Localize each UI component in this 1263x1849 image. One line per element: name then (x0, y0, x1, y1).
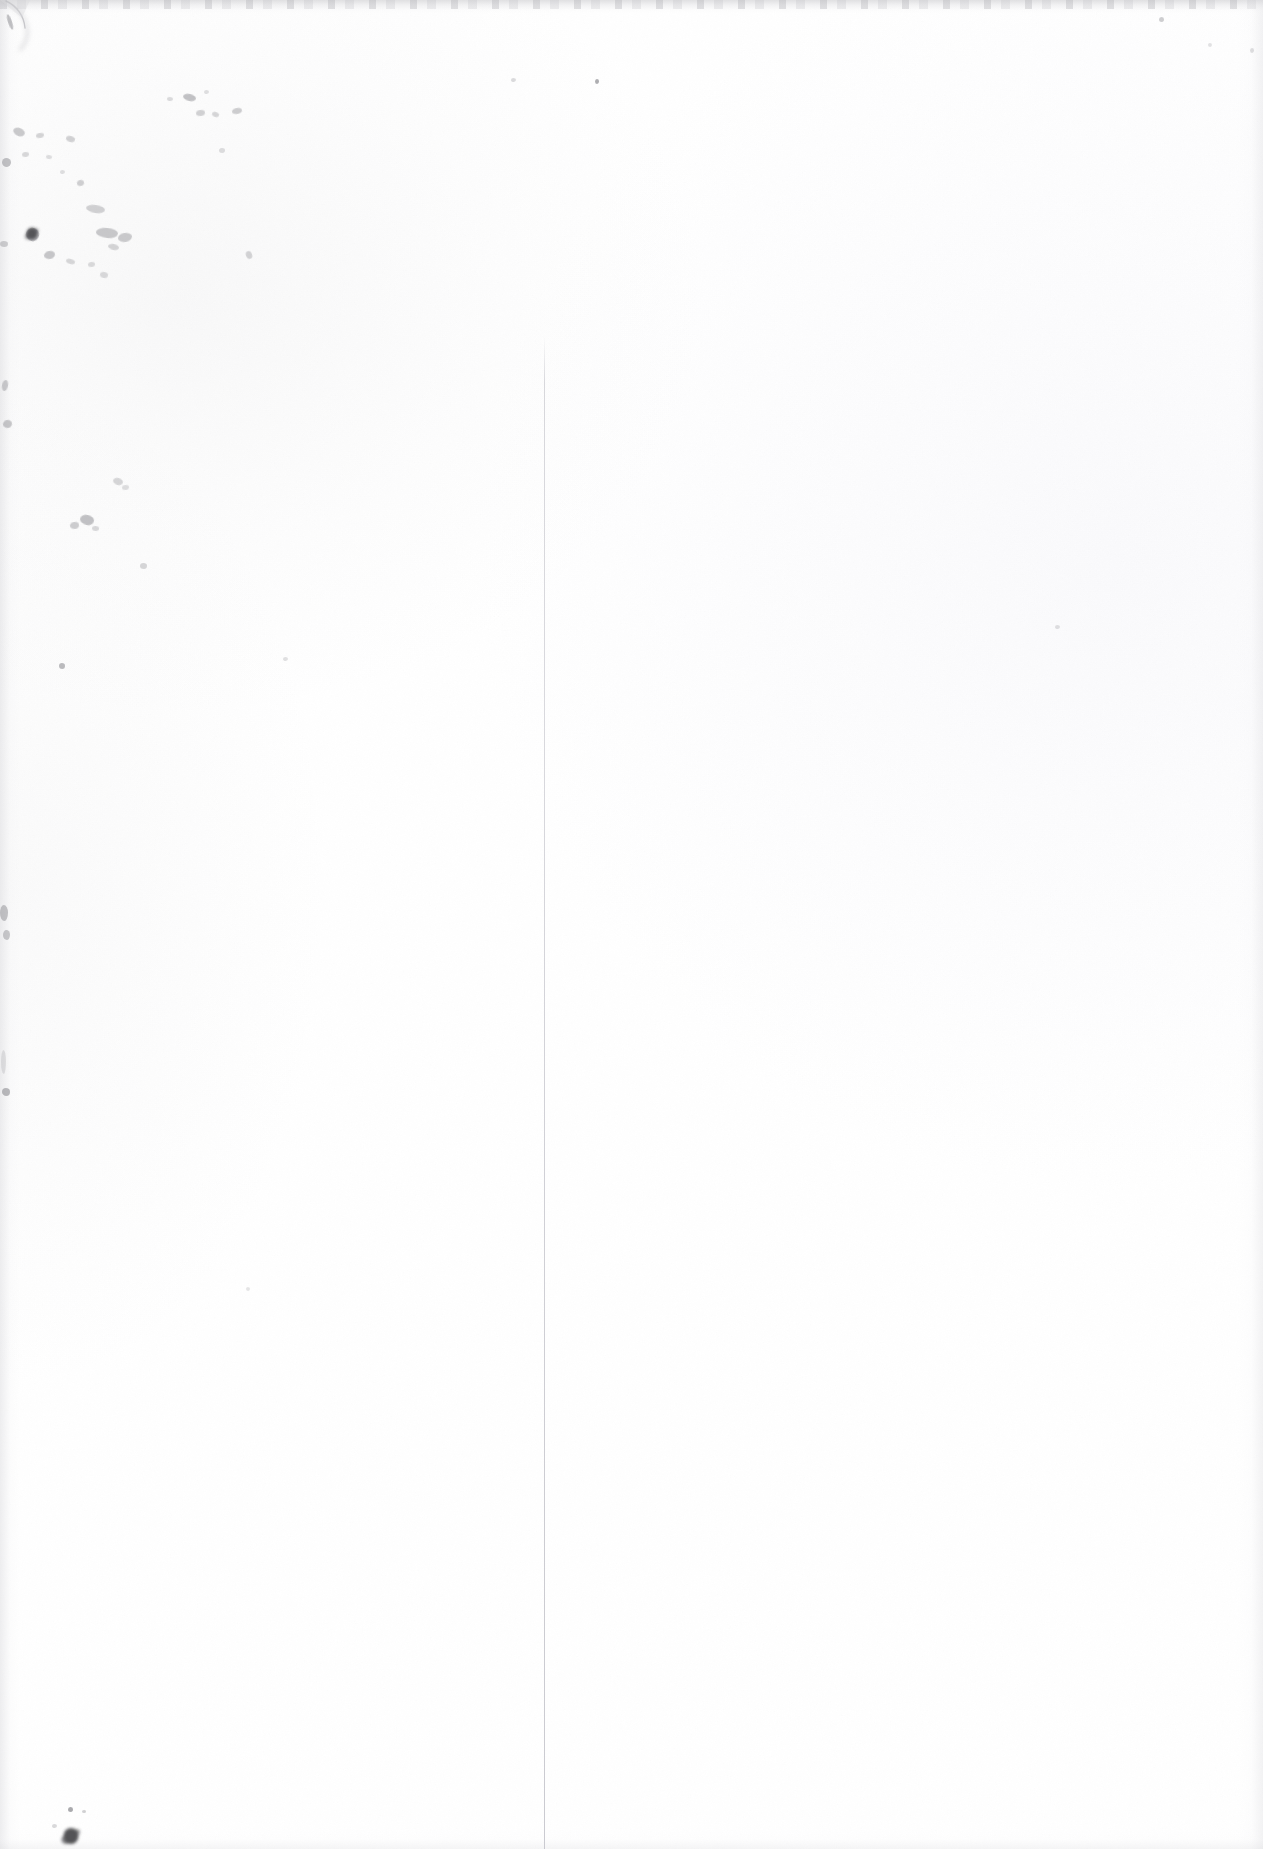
scanned-page (0, 0, 1263, 1849)
paper-surface (0, 0, 1263, 1849)
vertical-gutter-line (544, 337, 545, 1849)
